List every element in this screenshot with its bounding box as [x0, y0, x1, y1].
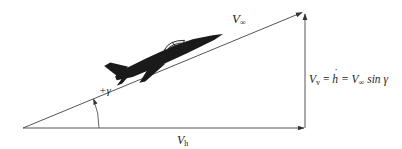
- v-v-equation-label: Vv = h = V∞ sin γ: [309, 73, 388, 87]
- freestream-velocity-arrow: [23, 13, 302, 129]
- v-infinity-main: V: [232, 11, 240, 26]
- equals-v-infinity: = V: [338, 73, 359, 85]
- v-h-label: Vh: [177, 133, 188, 148]
- sin-gamma-term: sin γ: [364, 73, 388, 85]
- equals-sign-1: =: [320, 73, 332, 85]
- gamma-angle-label: +γ: [99, 84, 111, 96]
- v-h-subscript: h: [184, 139, 188, 148]
- v-infinity-label: V∞: [232, 11, 246, 27]
- h-dot-symbol: h: [332, 73, 338, 85]
- v-v-main: V: [309, 73, 316, 85]
- flight-path-angle-arc: [94, 99, 100, 128]
- v-infinity-subscript: ∞: [240, 18, 246, 27]
- jet-aircraft-icon: [104, 18, 229, 93]
